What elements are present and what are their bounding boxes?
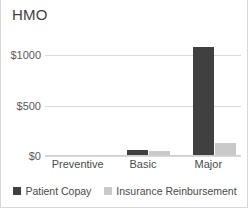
y-axis-tick-label: $1000	[1, 49, 41, 61]
bar-group	[45, 30, 110, 155]
chart-title: HMO	[12, 6, 48, 23]
plot-area	[45, 30, 241, 156]
y-axis-tick-label: $0	[1, 150, 41, 162]
legend-label: Patient Copay	[25, 185, 91, 197]
x-axis-tick-label: Major	[176, 158, 241, 170]
chart-legend: Patient CopayInsurance Reinbursement	[1, 185, 248, 197]
gridline	[45, 156, 241, 157]
x-axis-labels: PreventiveBasicMajor	[45, 158, 241, 174]
legend-item[interactable]: Insurance Reinbursement	[104, 185, 236, 197]
bar-group	[176, 30, 241, 155]
x-axis-line	[45, 155, 241, 156]
bar-group	[110, 30, 175, 155]
legend-item[interactable]: Patient Copay	[13, 185, 91, 197]
bar	[193, 47, 214, 155]
y-axis-tick-label: $500	[1, 100, 41, 112]
y-axis-labels: $0$500$1000	[1, 30, 41, 156]
bar	[215, 143, 236, 155]
x-axis-tick-label: Basic	[110, 158, 175, 170]
x-axis-tick-label: Preventive	[45, 158, 110, 170]
legend-swatch-icon	[104, 187, 112, 195]
chart-container: HMO $0$500$1000 PreventiveBasicMajor Pat…	[0, 0, 248, 208]
legend-swatch-icon	[13, 187, 21, 195]
legend-label: Insurance Reinbursement	[116, 185, 236, 197]
